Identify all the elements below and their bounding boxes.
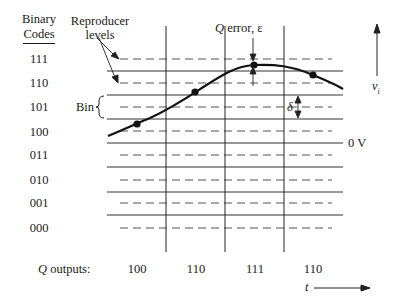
q-error-label: Q error, ε [215,22,262,35]
t-label: t [305,281,308,294]
q-outputs-q: Q [38,262,47,276]
reproducer-line2: levels [85,28,114,42]
sample-point-3 [250,61,257,68]
vi-axis-arrow-icon [374,24,380,76]
quantization-diagram [0,0,394,307]
vi-label: vi [372,80,380,96]
q-error-rest: error, ε [224,21,262,35]
q-output-1: 100 [128,263,147,276]
binary-code-111: 111 [30,53,48,66]
q-outputs-rest: outputs: [47,262,90,276]
vi-sub: i [378,87,380,96]
binary-code-000: 000 [30,222,49,235]
binary-code-101: 101 [30,101,49,114]
binary-codes-header: Binary Codes [18,12,60,44]
binary-code-010: 010 [30,174,49,187]
q-error-q: Q [215,21,224,35]
q-output-3: 111 [246,263,264,276]
binary-code-001: 001 [30,197,49,210]
reproducer-pointer-arrows [97,38,119,83]
sample-point-1 [133,120,140,127]
binary-header-line2: Codes [23,27,54,44]
sample-point-4 [309,71,316,78]
bin-label: Bin [76,101,94,114]
sample-point-2 [191,88,198,95]
delta-label: δ [287,101,293,114]
reproducer-levels-label: Reproducer levels [70,14,130,42]
binary-code-110: 110 [30,77,48,90]
zero-volt-label: 0 V [348,137,366,150]
binary-header-line1: Binary [22,12,56,26]
q-output-4: 110 [304,263,322,276]
sample-boundary-lines [166,26,284,252]
t-axis-arrow-icon [314,285,370,291]
bin-brace-icon [96,96,104,118]
binary-code-011: 011 [30,149,48,162]
reproducer-line1: Reproducer [71,14,129,28]
q-outputs-label: Q outputs: [38,263,90,276]
q-output-2: 110 [187,263,205,276]
binary-code-100: 100 [30,126,49,139]
